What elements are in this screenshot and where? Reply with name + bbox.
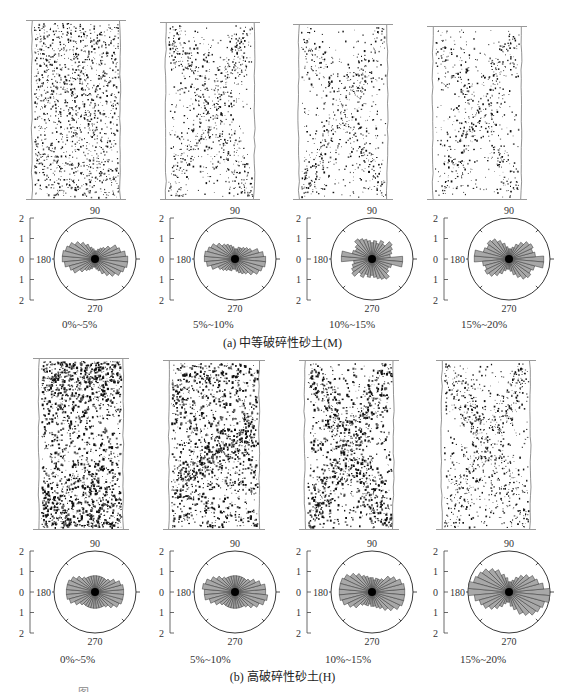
svg-text:0: 0 xyxy=(19,254,24,265)
specimen-image-b-2 xyxy=(299,360,399,530)
rose-diagram-b-1: 21012902701800 xyxy=(140,538,280,653)
specimen-label-a-0: 0%~5% xyxy=(62,318,97,330)
svg-text:2: 2 xyxy=(159,295,164,306)
svg-text:2: 2 xyxy=(19,295,24,306)
svg-text:180: 180 xyxy=(313,254,328,265)
svg-text:1: 1 xyxy=(159,274,164,285)
svg-text:270: 270 xyxy=(502,636,517,647)
svg-text:2: 2 xyxy=(433,213,438,224)
specimen-image-b-0 xyxy=(33,358,129,530)
svg-text:2: 2 xyxy=(19,546,24,557)
svg-text:2: 2 xyxy=(433,628,438,639)
svg-text:2: 2 xyxy=(19,628,24,639)
svg-text:270: 270 xyxy=(365,303,380,314)
svg-text:2: 2 xyxy=(296,295,301,306)
svg-text:0: 0 xyxy=(433,587,438,598)
rose-diagram-a-0: 21012902701800 xyxy=(0,205,140,320)
svg-text:2: 2 xyxy=(433,295,438,306)
svg-text:2: 2 xyxy=(296,546,301,557)
specimen-label-b-3: 15%~20% xyxy=(460,653,506,665)
rose-diagram-a-2: 21012902701800 xyxy=(277,205,417,320)
svg-text:1: 1 xyxy=(296,607,301,618)
svg-text:0: 0 xyxy=(159,254,164,265)
specimen-image-a-3 xyxy=(427,26,527,200)
svg-text:270: 270 xyxy=(88,303,103,314)
rose-diagram-a-3: 21012902701800 xyxy=(414,205,554,320)
specimen-label-a-1: 5%~10% xyxy=(193,318,234,330)
svg-text:90: 90 xyxy=(230,205,240,216)
svg-text:270: 270 xyxy=(228,636,243,647)
svg-text:2: 2 xyxy=(296,628,301,639)
svg-text:0: 0 xyxy=(433,254,438,265)
specimen-label-a-3: 15%~20% xyxy=(461,318,507,330)
rose-diagram-b-2: 21012902701800 xyxy=(277,538,417,653)
svg-text:0: 0 xyxy=(159,587,164,598)
svg-text:1: 1 xyxy=(296,274,301,285)
svg-text:1: 1 xyxy=(433,274,438,285)
figure: 21012902701800 21012902701800 2101290270… xyxy=(0,0,565,692)
svg-text:2: 2 xyxy=(159,628,164,639)
svg-text:2: 2 xyxy=(159,213,164,224)
specimen-label-a-2: 10%~15% xyxy=(329,318,375,330)
svg-text:1: 1 xyxy=(433,566,438,577)
svg-text:90: 90 xyxy=(230,538,240,549)
rose-diagram-b-3: 21012902701800 xyxy=(414,538,554,653)
svg-text:270: 270 xyxy=(228,303,243,314)
specimen-image-b-3 xyxy=(436,360,536,530)
panel-caption-b: (b) 高破碎性砂土(H) xyxy=(0,667,565,685)
svg-text:180: 180 xyxy=(176,587,191,598)
rose-diagram-a-1: 21012902701800 xyxy=(140,205,280,320)
svg-text:1: 1 xyxy=(433,233,438,244)
svg-text:180: 180 xyxy=(36,254,51,265)
specimen-label-b-2: 10%~15% xyxy=(325,653,371,665)
svg-text:90: 90 xyxy=(367,538,377,549)
svg-text:1: 1 xyxy=(296,566,301,577)
svg-text:180: 180 xyxy=(313,587,328,598)
svg-text:2: 2 xyxy=(159,546,164,557)
svg-text:1: 1 xyxy=(296,233,301,244)
svg-text:90: 90 xyxy=(504,538,514,549)
specimen-label-b-1: 5%~10% xyxy=(190,653,231,665)
figure-caption: 图 xyxy=(78,684,89,692)
svg-text:1: 1 xyxy=(159,607,164,618)
svg-text:180: 180 xyxy=(176,254,191,265)
svg-text:2: 2 xyxy=(296,213,301,224)
specimen-label-b-0: 0%~5% xyxy=(60,653,95,665)
svg-text:270: 270 xyxy=(88,636,103,647)
svg-text:1: 1 xyxy=(19,274,24,285)
svg-text:180: 180 xyxy=(450,254,465,265)
svg-text:0: 0 xyxy=(19,587,24,598)
svg-text:1: 1 xyxy=(19,233,24,244)
svg-text:1: 1 xyxy=(159,566,164,577)
svg-text:1: 1 xyxy=(19,607,24,618)
svg-text:90: 90 xyxy=(90,205,100,216)
svg-text:270: 270 xyxy=(365,636,380,647)
panel-caption-a: (a) 中等破碎性砂土(M) xyxy=(0,333,565,351)
svg-text:1: 1 xyxy=(433,607,438,618)
svg-text:1: 1 xyxy=(159,233,164,244)
rose-diagram-b-0: 21012902701800 xyxy=(0,538,140,653)
svg-text:90: 90 xyxy=(504,205,514,216)
svg-text:0: 0 xyxy=(296,587,301,598)
specimen-image-a-1 xyxy=(160,22,260,200)
svg-text:90: 90 xyxy=(90,538,100,549)
svg-text:90: 90 xyxy=(367,205,377,216)
specimen-image-a-0 xyxy=(26,20,126,200)
specimen-image-a-2 xyxy=(293,24,393,200)
svg-text:180: 180 xyxy=(36,587,51,598)
svg-text:270: 270 xyxy=(502,303,517,314)
svg-text:0: 0 xyxy=(296,254,301,265)
svg-text:1: 1 xyxy=(19,566,24,577)
specimen-image-b-1 xyxy=(163,360,265,530)
svg-text:2: 2 xyxy=(19,213,24,224)
svg-text:2: 2 xyxy=(433,546,438,557)
svg-text:180: 180 xyxy=(450,587,465,598)
